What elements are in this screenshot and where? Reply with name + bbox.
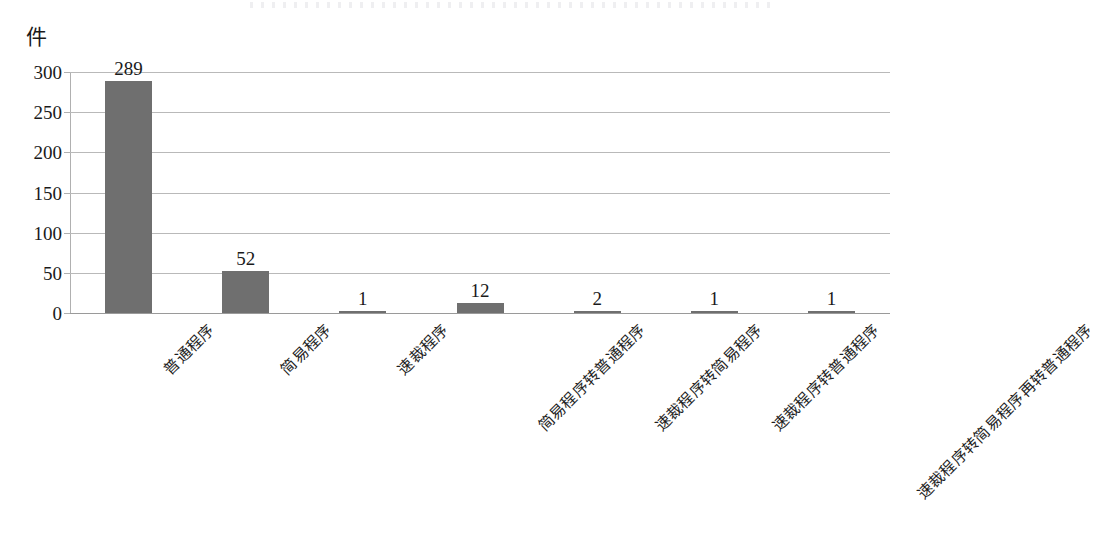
- y-tick-label: 250: [2, 103, 62, 122]
- gridline: [70, 233, 890, 234]
- y-axis-unit-label: 件: [26, 27, 47, 48]
- x-tick-label: 简易程序转普通程序: [536, 322, 649, 435]
- bar-value-label: 52: [206, 249, 286, 268]
- y-tick-label: 50: [2, 263, 62, 282]
- gridline: [70, 193, 890, 194]
- gridline: [70, 72, 890, 73]
- bar[interactable]: [105, 81, 152, 313]
- gridline: [70, 152, 890, 153]
- y-tick-label: 0: [2, 304, 62, 323]
- bar[interactable]: [457, 303, 504, 313]
- x-tick-label: 速裁程序: [396, 322, 452, 378]
- plot-area: 28952112211: [70, 72, 890, 313]
- x-tick-label: 速裁程序转简易程序再转普通程序: [916, 322, 1094, 503]
- gridline: [70, 313, 890, 314]
- bar[interactable]: [222, 271, 269, 313]
- y-axis-tick-labels: 050100150200250300: [0, 72, 62, 313]
- y-tick-label: 300: [2, 63, 62, 82]
- bar[interactable]: [808, 311, 855, 313]
- y-tick-label: 100: [2, 223, 62, 242]
- bar[interactable]: [339, 311, 386, 313]
- bar[interactable]: [574, 311, 621, 313]
- x-tick-label: 普通程序: [161, 322, 217, 378]
- bar-value-label: 1: [791, 289, 871, 308]
- gridline: [70, 112, 890, 113]
- x-tick-label: 速裁程序转普通程序: [770, 322, 883, 435]
- y-tick-label: 150: [2, 183, 62, 202]
- x-axis-tick-labels: 普通程序简易程序速裁程序简易程序转普通程序速裁程序转简易程序速裁程序转普通程序速…: [0, 322, 925, 560]
- x-tick-label: 速裁程序转简易程序: [653, 322, 766, 435]
- bar-value-label: 289: [89, 59, 169, 78]
- bar-value-label: 1: [674, 289, 754, 308]
- bar-value-label: 2: [557, 289, 637, 308]
- bar-value-label: 1: [323, 289, 403, 308]
- bar-value-label: 12: [440, 281, 520, 300]
- y-tick-label: 200: [2, 143, 62, 162]
- x-tick-label: 简易程序: [278, 322, 334, 378]
- bar[interactable]: [691, 311, 738, 313]
- gridline: [70, 273, 890, 274]
